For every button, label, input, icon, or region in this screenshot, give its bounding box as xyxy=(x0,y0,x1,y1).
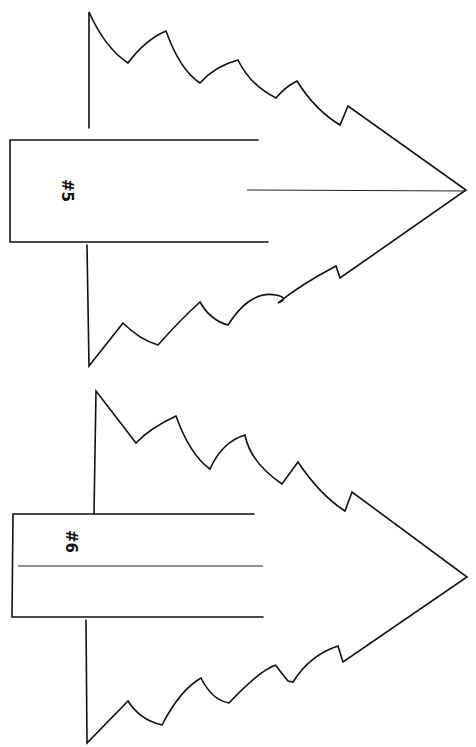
tree-6-label: #6 xyxy=(63,530,78,553)
tree-6-outline xyxy=(86,391,467,743)
tree-template-5 xyxy=(10,12,466,366)
tree-template-6 xyxy=(12,391,467,743)
tree-5-label: #5 xyxy=(59,179,74,202)
template-sheet xyxy=(0,0,476,747)
tree-5-outline xyxy=(87,12,466,366)
tree-5-trunk xyxy=(10,140,268,242)
tree-5-center-line xyxy=(247,190,466,191)
